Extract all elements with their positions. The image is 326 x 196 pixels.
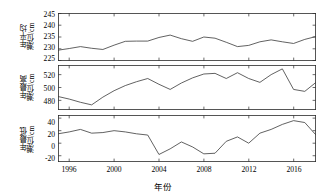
panel-2-ytick-480: 480 <box>33 98 55 106</box>
xtick-2000: 2000 <box>99 166 129 174</box>
panel-1-ytick-245: 245 <box>33 11 55 19</box>
panel-2-ytick-520: 520 <box>33 72 55 80</box>
panel-2-series-line <box>58 69 316 105</box>
panel-1-ytick-235: 235 <box>33 33 55 41</box>
panel-3-axis-frame <box>58 115 315 161</box>
xtick-2012: 2012 <box>234 166 264 174</box>
panel-1-xticks <box>69 13 294 60</box>
x-axis-label: 年份 <box>0 180 326 192</box>
panel-3-plot-area <box>58 115 316 162</box>
xtick-2004: 2004 <box>144 166 174 174</box>
panel-2-xticks <box>69 65 294 109</box>
panel-3-ytick-neg20: -20 <box>33 155 55 163</box>
panel-1-axis-frame <box>58 13 315 60</box>
panel-2-yticks <box>58 75 315 101</box>
figure-root: 年平均 潮位/cm 245 240 235 230 225 <box>0 0 326 196</box>
panel-2-svg <box>58 65 316 110</box>
panel-1-ytick-230: 230 <box>33 44 55 52</box>
xtick-1996: 1996 <box>54 166 84 174</box>
panel-1-ytick-225: 225 <box>33 55 55 63</box>
panel-2-plot-area <box>58 65 316 110</box>
panel-3-series-line <box>58 121 316 155</box>
panel-1-svg <box>58 13 316 61</box>
panel-3-yticks <box>58 118 315 156</box>
xtick-2016: 2016 <box>279 166 309 174</box>
panel-3-ytick-0: 0 <box>33 143 55 151</box>
panel-3-ytick-40: 40 <box>33 119 55 127</box>
panel-3-ytick-20: 20 <box>33 131 55 139</box>
panel-3-xticks <box>69 115 294 161</box>
panel-2-ytick-500: 500 <box>33 85 55 93</box>
xtick-2008: 2008 <box>189 166 219 174</box>
panel-1-ytick-240: 240 <box>33 22 55 30</box>
panel-3-svg <box>58 115 316 162</box>
panel-1-plot-area <box>58 13 316 61</box>
panel-1-yticks <box>58 13 315 60</box>
panel-1-series-line <box>58 35 316 50</box>
